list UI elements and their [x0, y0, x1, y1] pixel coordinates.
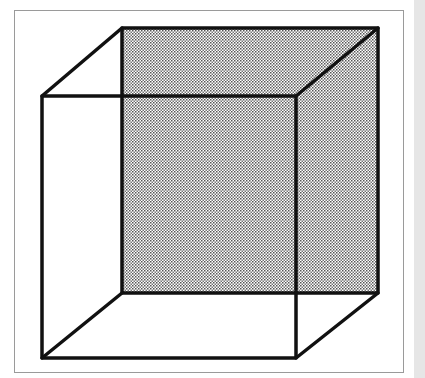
edge-top-left [42, 28, 122, 96]
back-face-shaded [122, 28, 378, 293]
edge-bottom-left [42, 293, 122, 358]
edge-bottom-right [296, 293, 378, 358]
necker-cube-diagram [0, 0, 425, 378]
